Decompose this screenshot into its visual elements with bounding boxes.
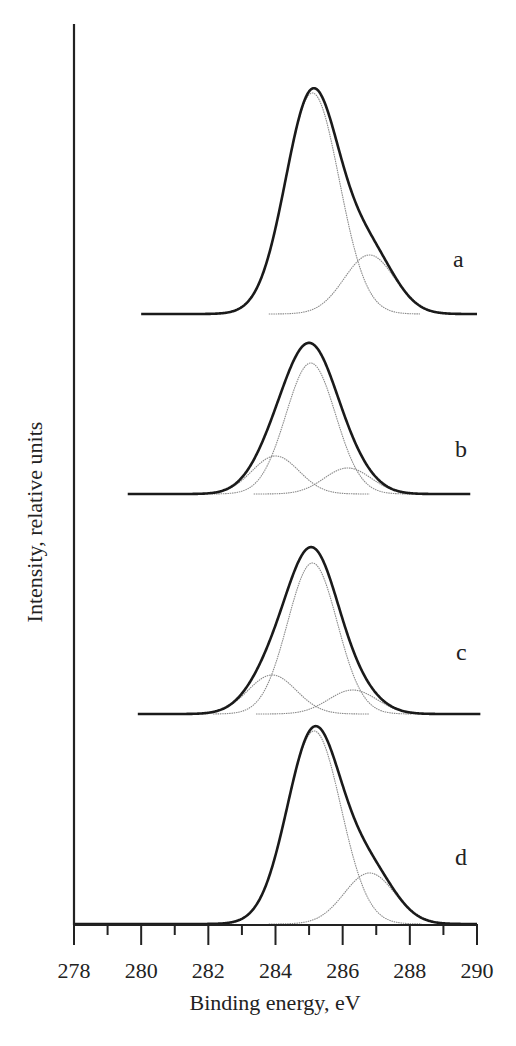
component-peak-d-2 bbox=[269, 873, 471, 924]
component-peak-b-2 bbox=[181, 456, 369, 494]
x-tick-label: 288 bbox=[393, 958, 426, 983]
curve-label-c: c bbox=[456, 639, 467, 665]
component-peak-b-3 bbox=[254, 468, 442, 494]
curve-labels: abcd bbox=[453, 246, 467, 870]
x-tick-label: 278 bbox=[58, 958, 91, 983]
spectrum-c bbox=[138, 547, 481, 714]
component-peak-d-1 bbox=[207, 731, 422, 924]
spectrum-b bbox=[128, 343, 471, 494]
component-peak-c-3 bbox=[256, 690, 449, 714]
curve-label-a: a bbox=[453, 246, 464, 272]
xps-chart: 278280282284286288290 Binding energy, eV… bbox=[0, 0, 516, 1046]
component-peak-a-1 bbox=[205, 93, 420, 314]
x-tick-label: 280 bbox=[125, 958, 158, 983]
envelope-a bbox=[141, 88, 477, 314]
x-tick-label: 286 bbox=[326, 958, 359, 983]
x-tick-label: 284 bbox=[259, 958, 292, 983]
curve-label-d: d bbox=[455, 844, 467, 870]
plot-area bbox=[74, 88, 480, 924]
component-peak-c-2 bbox=[175, 675, 368, 714]
envelope-d bbox=[74, 726, 477, 924]
component-peak-a-2 bbox=[269, 255, 471, 314]
x-tick-labels: 278280282284286288290 bbox=[58, 958, 494, 983]
y-axis-title: Intensity, relative units bbox=[22, 422, 47, 623]
axes: 278280282284286288290 bbox=[58, 24, 494, 983]
curve-label-b: b bbox=[455, 436, 467, 462]
component-peak-b-1 bbox=[211, 363, 410, 494]
x-ticks bbox=[74, 925, 477, 945]
spectrum-d bbox=[74, 726, 477, 924]
x-tick-label: 290 bbox=[461, 958, 494, 983]
x-tick-label: 282 bbox=[192, 958, 225, 983]
x-axis-title: Binding energy, eV bbox=[189, 990, 360, 1015]
envelope-c bbox=[138, 547, 481, 714]
spectrum-a bbox=[141, 88, 477, 314]
